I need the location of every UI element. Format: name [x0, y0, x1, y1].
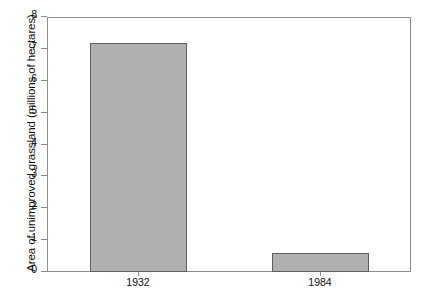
y-axis-tick-label: 1	[16, 232, 37, 243]
bar	[272, 253, 369, 272]
y-axis-tick-label: 2	[16, 200, 37, 211]
y-axis-tick-label: 0	[16, 264, 37, 275]
x-axis-tick-mark	[320, 272, 321, 276]
y-axis-tick-label: 4	[16, 137, 37, 148]
bar-chart: Area of unimproved grassland (millions o…	[0, 0, 424, 307]
bars-layer	[47, 17, 411, 272]
y-axis-tick-label: 5	[16, 105, 37, 116]
y-axis-tick-label: 8	[16, 9, 37, 20]
y-axis-tick-label: 6	[16, 73, 37, 84]
x-axis-tick-mark	[138, 272, 139, 276]
bar	[90, 43, 187, 273]
y-axis-tick-label: 7	[16, 41, 37, 52]
x-axis-tick-label: 1932	[78, 277, 198, 288]
y-axis-tick-label: 3	[16, 168, 37, 179]
x-axis-tick-label: 1984	[260, 277, 380, 288]
